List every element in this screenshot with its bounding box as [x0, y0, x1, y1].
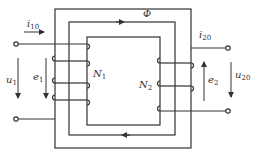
core-outer-edge [55, 9, 191, 148]
flux-path [69, 22, 175, 135]
transformer-diagram: Φ i10 i20 u1 e1 N1 N2 e2 u20 [0, 0, 254, 156]
secondary-terminal-top [226, 46, 230, 50]
e2-label: e2 [208, 74, 218, 87]
secondary-terminal-bottom [226, 109, 230, 113]
n2-label: N2 [138, 79, 152, 92]
n1-label: N1 [92, 68, 106, 81]
primary-winding [17, 44, 90, 119]
i20-label: i20 [199, 29, 211, 42]
e1-label: e1 [33, 71, 43, 84]
flux-arrows [116, 22, 130, 135]
flux-label: Φ [143, 8, 151, 19]
i10-label: i10 [27, 18, 39, 31]
primary-terminal-top [14, 42, 18, 46]
u1-label: u1 [6, 74, 17, 87]
primary-terminal-bottom [14, 117, 18, 121]
u20-label: u20 [235, 69, 250, 82]
core-inner-edge [87, 37, 160, 125]
